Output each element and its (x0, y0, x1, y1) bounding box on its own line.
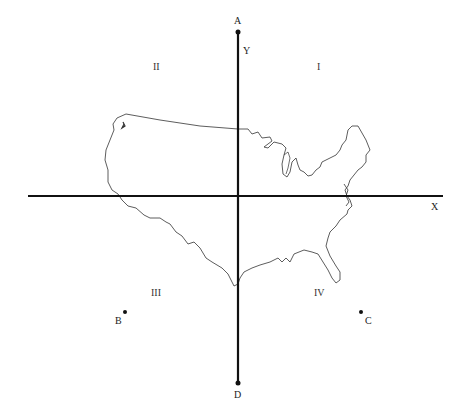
point-b-marker (123, 310, 127, 314)
x-axis-label: X (431, 201, 439, 212)
point-a-marker (236, 30, 241, 35)
quadrant-iii-label: III (151, 287, 161, 298)
point-b-label: B (115, 315, 122, 326)
point-a-label: A (234, 15, 242, 26)
quadrant-ii-label: II (153, 61, 160, 72)
quadrant-iv-label: IV (314, 287, 325, 298)
coordinate-plane-diagram: X Y A D B C I II III IV (0, 0, 462, 419)
puget-sound-detail (122, 122, 125, 128)
lake-michigan-outline (284, 152, 290, 174)
point-c-marker (359, 310, 363, 314)
quadrant-i-label: I (317, 61, 320, 72)
y-axis-label: Y (243, 45, 250, 56)
point-c-label: C (365, 315, 372, 326)
point-d-label: D (234, 389, 241, 400)
point-d-marker (236, 381, 241, 386)
